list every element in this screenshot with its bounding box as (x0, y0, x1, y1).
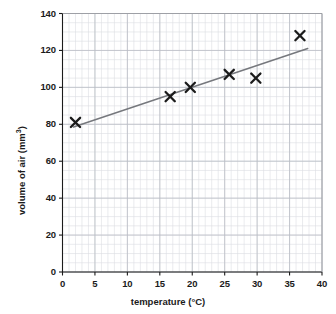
y-axis-title-base: volume of air (mm (16, 133, 27, 215)
x-tick-label: 10 (113, 278, 141, 289)
x-tick-label: 0 (49, 278, 77, 289)
y-axis-title-exponent: 3 (15, 129, 22, 133)
x-tick-label: 30 (243, 278, 271, 289)
y-tick-label: 40 (28, 192, 56, 203)
y-axis-title-tail: ) (16, 126, 27, 129)
chart-container: 020406080100120140 0510152025303540 temp… (0, 0, 336, 314)
y-tick-label: 140 (28, 8, 56, 19)
axis-ticks (59, 14, 322, 276)
x-tick-label: 35 (276, 278, 304, 289)
y-tick-label: 120 (28, 44, 56, 55)
y-tick-label: 80 (28, 118, 56, 129)
y-tick-label: 0 (28, 266, 56, 277)
y-tick-label: 100 (28, 81, 56, 92)
y-tick-label: 20 (28, 229, 56, 240)
x-tick-label: 25 (211, 278, 239, 289)
x-axis-title: temperature (°C) (0, 296, 336, 307)
x-tick-label: 5 (81, 278, 109, 289)
y-axis-title: volume of air (mm3) (16, 126, 27, 215)
x-tick-label: 40 (308, 278, 336, 289)
x-tick-label: 15 (146, 278, 174, 289)
data-point-markers (71, 31, 305, 127)
y-tick-label: 60 (28, 155, 56, 166)
x-tick-label: 20 (178, 278, 206, 289)
